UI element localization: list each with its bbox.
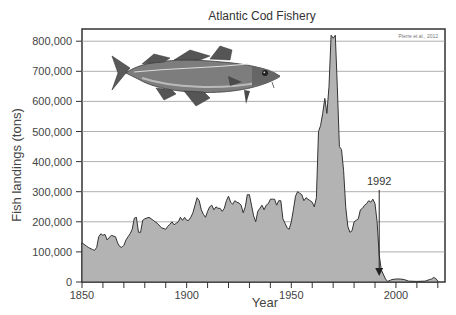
y-tick-label: 700,000 bbox=[32, 65, 72, 77]
cod-fishery-chart: Atlantic Cod Fishery 0100,000200,000300,… bbox=[0, 0, 456, 315]
y-axis-ticks: 0100,000200,000300,000400,000500,000600,… bbox=[32, 35, 82, 288]
y-tick-label: 200,000 bbox=[32, 216, 72, 228]
y-tick-label: 800,000 bbox=[32, 35, 72, 47]
y-tick-label: 400,000 bbox=[32, 156, 72, 168]
source-note: Pierre et al., 2012 bbox=[399, 33, 439, 39]
y-tick-label: 300,000 bbox=[32, 186, 72, 198]
annotation-1992-label: 1992 bbox=[367, 175, 391, 187]
x-tick-label: 1850 bbox=[70, 289, 94, 301]
x-tick-label: 1900 bbox=[174, 289, 198, 301]
chart-title: Atlantic Cod Fishery bbox=[208, 9, 315, 23]
y-tick-label: 600,000 bbox=[32, 95, 72, 107]
x-tick-label: 1950 bbox=[279, 289, 303, 301]
x-axis-label: Year bbox=[252, 295, 279, 310]
x-tick-label: 2000 bbox=[384, 289, 408, 301]
y-tick-label: 100,000 bbox=[32, 246, 72, 258]
y-tick-label: 0 bbox=[66, 276, 72, 288]
y-axis-label: Fish landings (tons) bbox=[9, 108, 24, 221]
y-tick-label: 500,000 bbox=[32, 126, 72, 138]
